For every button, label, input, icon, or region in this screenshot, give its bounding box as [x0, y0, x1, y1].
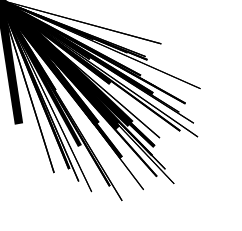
- fractal-arrow-illustration: Recursive Fractal Arrow A large horizont…: [0, 0, 242, 231]
